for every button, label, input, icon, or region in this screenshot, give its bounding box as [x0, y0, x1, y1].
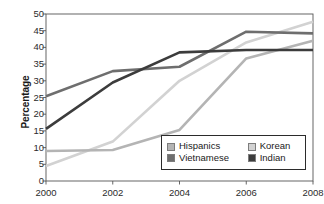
legend-item-indian[interactable]: Indian — [248, 153, 300, 164]
legend-swatch-icon — [167, 154, 175, 162]
line-chart: Percentage 05101520253035404550 20002002… — [0, 0, 324, 204]
legend-swatch-icon — [248, 154, 256, 162]
x-tick-label: 2006 — [236, 187, 257, 198]
legend-label: Indian — [260, 153, 286, 164]
legend-item-korean[interactable]: Korean — [248, 141, 300, 152]
x-tick-label: 2004 — [169, 187, 190, 198]
legend-swatch-icon — [167, 143, 175, 151]
legend-swatch-icon — [248, 143, 256, 151]
legend-label: Hispanics — [179, 141, 220, 152]
legend-item-vietnamese[interactable]: Vietnamese — [167, 153, 239, 164]
chart-legend: HispanicsKoreanVietnameseIndian — [161, 135, 306, 170]
x-tick-label: 2008 — [302, 187, 323, 198]
legend-label: Vietnamese — [179, 153, 229, 164]
x-axis-tick-labels: 20002002200420062008 — [0, 0, 324, 204]
x-tick-label: 2000 — [35, 187, 56, 198]
legend-label: Korean — [260, 141, 291, 152]
legend-item-hispanics[interactable]: Hispanics — [167, 141, 239, 152]
x-tick-label: 2002 — [102, 187, 123, 198]
